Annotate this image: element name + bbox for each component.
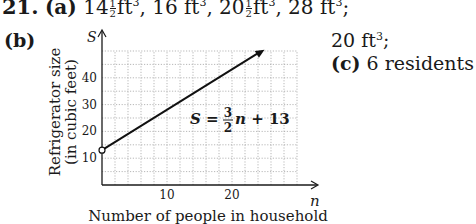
svg-text:40: 40 [82, 71, 97, 85]
x-axis-label: Number of people in household [88, 207, 328, 224]
equation-annotation: S =32n + 13 [190, 106, 290, 135]
y-axis-label-units: (in cubic feet) [62, 59, 80, 165]
svg-text:n + 13: n + 13 [235, 110, 290, 128]
svg-text:20: 20 [82, 124, 97, 138]
svg-text:3: 3 [224, 106, 232, 120]
chart-series-line [99, 50, 265, 154]
svg-text:2: 2 [224, 121, 232, 135]
line-chart: 102010203040 Refrigerator size (in cubic… [0, 0, 476, 224]
svg-text:10: 10 [159, 188, 174, 202]
svg-text:S =: S = [190, 110, 219, 128]
x-axis-variable: n [310, 192, 320, 210]
svg-text:10: 10 [82, 151, 97, 165]
y-axis-variable: S [87, 29, 97, 45]
svg-text:20: 20 [224, 188, 239, 202]
chart-tick-labels: 102010203040 [82, 71, 240, 202]
svg-text:30: 30 [82, 98, 97, 112]
